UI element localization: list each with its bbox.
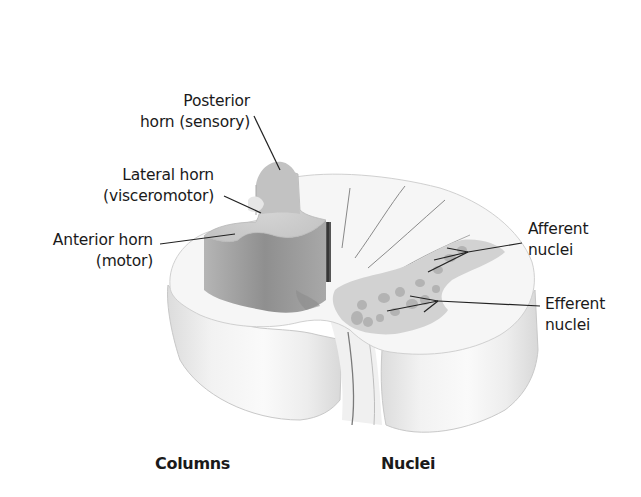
label-anterior-horn-line2: (motor): [30, 251, 153, 272]
label-efferent-nuclei: Efferent nuclei: [545, 294, 605, 336]
label-posterior-horn-line1: Posterior: [150, 91, 250, 112]
label-posterior-horn-2: horn (sensory): [126, 112, 250, 133]
label-lateral-horn-line1: Lateral horn: [96, 165, 214, 186]
label-posterior-horn-line2: horn (sensory): [126, 112, 250, 133]
label-anterior-horn-line1: Anterior horn: [30, 230, 153, 251]
label-posterior-horn: Posterior: [150, 91, 250, 112]
caption-nuclei: Nuclei: [381, 454, 435, 473]
label-efferent-line2: nuclei: [545, 315, 605, 336]
label-anterior-horn: Anterior horn (motor): [30, 230, 153, 272]
caption-columns: Columns: [155, 454, 230, 473]
label-afferent-nuclei: Afferent nuclei: [528, 219, 588, 261]
label-lateral-horn: Lateral horn (visceromotor): [96, 165, 214, 207]
label-afferent-line1: Afferent: [528, 219, 588, 240]
label-afferent-line2: nuclei: [528, 240, 588, 261]
label-efferent-line1: Efferent: [545, 294, 605, 315]
label-lateral-horn-line2: (visceromotor): [96, 186, 214, 207]
